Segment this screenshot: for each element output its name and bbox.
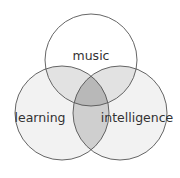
label-intelligence: intelligence (101, 110, 174, 125)
label-music: music (73, 48, 110, 63)
venn-diagram: music learning intelligence (0, 0, 180, 178)
label-learning: learning (15, 110, 66, 125)
